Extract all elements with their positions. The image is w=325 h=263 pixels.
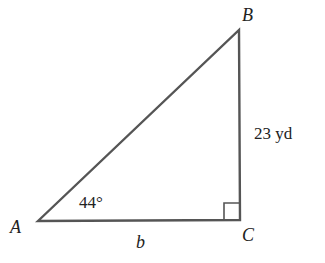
triangle-diagram: B A C 23 yd 44° b — [0, 0, 325, 263]
vertex-label-c: C — [242, 226, 254, 244]
triangle-abc — [38, 30, 240, 221]
angle-a-measure: 44° — [79, 194, 103, 211]
side-ac-label: b — [136, 233, 145, 251]
vertex-label-b: B — [242, 6, 253, 24]
vertex-label-a: A — [10, 218, 21, 236]
side-bc-length: 23 yd — [254, 125, 292, 142]
right-angle-marker — [224, 203, 240, 220]
